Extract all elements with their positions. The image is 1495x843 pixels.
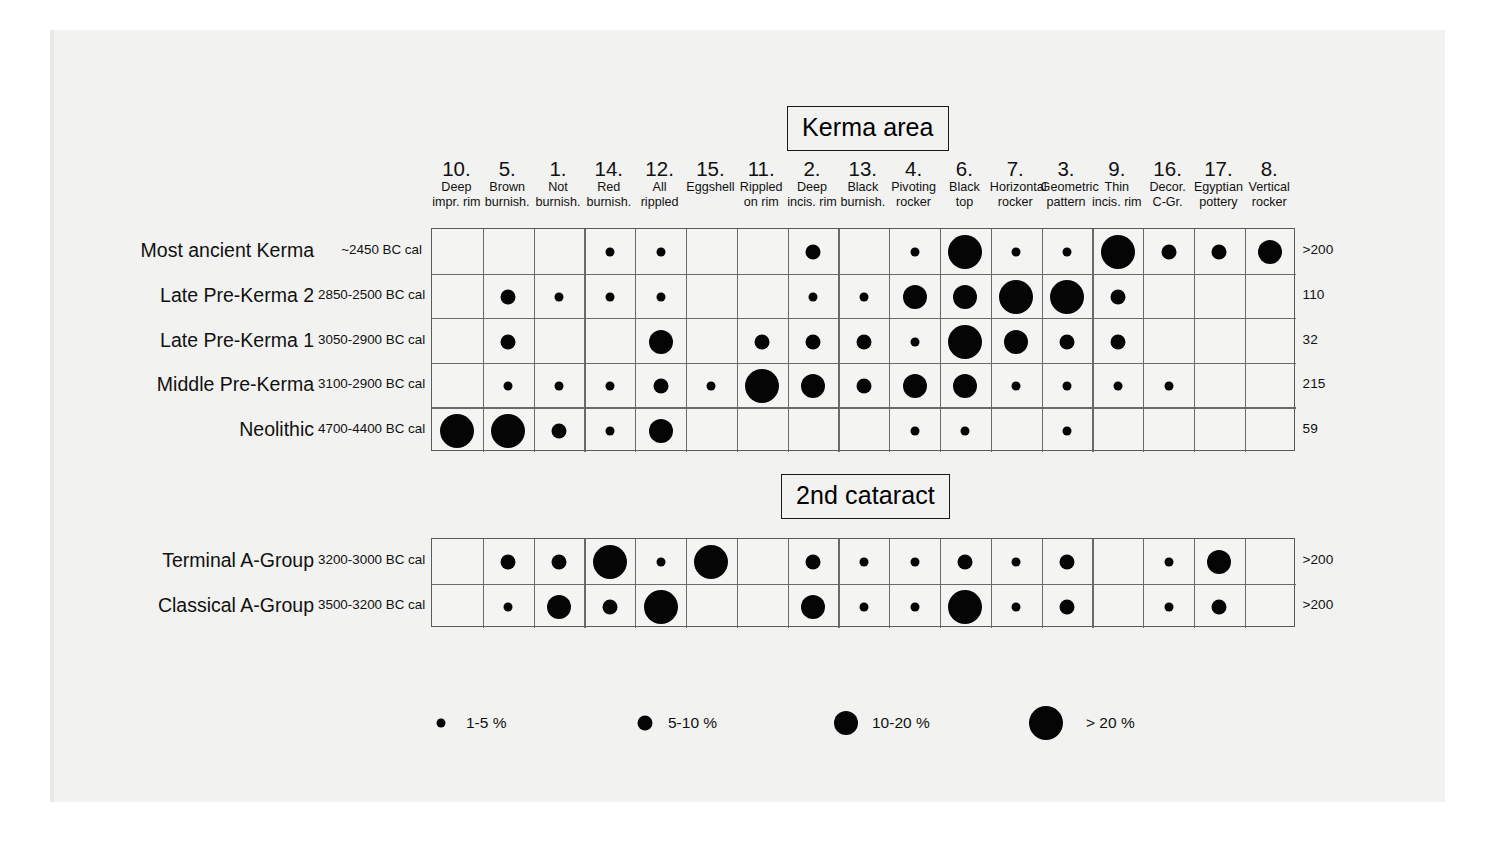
- data-bubble: [1258, 240, 1282, 264]
- grid-horizontal-line: [432, 318, 1296, 319]
- grid-vertical-line: [686, 229, 687, 452]
- data-bubble: [1063, 248, 1072, 257]
- grid-horizontal-line: [432, 363, 1296, 364]
- column-label-line1: Vertical: [1244, 180, 1295, 195]
- column-label-line2: pattern: [1041, 195, 1092, 210]
- column-number: 8.: [1244, 158, 1295, 180]
- data-bubble: [501, 289, 516, 304]
- column-label-line1: Deep: [431, 180, 482, 195]
- row-label-4: Middle Pre-Kerma: [60, 374, 314, 394]
- column-label-line2: C-Gr.: [1142, 195, 1193, 210]
- legend-bubble-3: [834, 711, 858, 735]
- column-label-line1: Decor.: [1142, 180, 1193, 195]
- data-bubble: [593, 545, 627, 579]
- column-header-11: 6.Blacktop: [939, 158, 990, 209]
- column-label-line2: impr. rim: [431, 195, 482, 210]
- data-bubble: [903, 285, 927, 309]
- column-number: 7.: [990, 158, 1041, 180]
- data-bubble: [1110, 334, 1125, 349]
- column-label-line2: pottery: [1193, 195, 1244, 210]
- data-bubble: [1060, 555, 1075, 570]
- grid-vertical-line: [584, 229, 585, 452]
- column-header-14: 9.Thinincis. rim: [1091, 158, 1142, 209]
- column-label-line2: incis. rim: [1091, 195, 1142, 210]
- row-date-2: 2850-2500 BC cal: [318, 287, 422, 303]
- data-bubble: [755, 334, 770, 349]
- data-bubble: [1012, 558, 1021, 567]
- row-count-4: 215: [1303, 376, 1326, 392]
- legend-bubble-4: [1029, 706, 1063, 740]
- column-label-line1: Brown: [482, 180, 533, 195]
- row-count-6: >200: [1303, 552, 1334, 568]
- column-header-13: 3.Geometricpattern: [1041, 158, 1092, 209]
- column-number: 9.: [1091, 158, 1142, 180]
- column-label-line1: Rippled: [736, 180, 787, 195]
- data-bubble: [999, 280, 1033, 314]
- data-bubble: [605, 382, 614, 391]
- data-bubble: [745, 369, 779, 403]
- data-bubble: [948, 325, 982, 359]
- grid-vertical-line: [1143, 229, 1144, 452]
- data-bubble: [1164, 602, 1173, 611]
- legend-label-4: > 20 %: [1086, 714, 1135, 732]
- row-label-3: Late Pre-Kerma 1: [60, 330, 314, 350]
- column-header-9: 13.Blackburnish.: [837, 158, 888, 209]
- column-header-1: 10.Deepimpr. rim: [431, 158, 482, 209]
- column-header-2: 5.Brownburnish.: [482, 158, 533, 209]
- column-label-line1: Black: [939, 180, 990, 195]
- column-number: 5.: [482, 158, 533, 180]
- row-label-2: Late Pre-Kerma 2: [60, 285, 314, 305]
- grid-vertical-line: [940, 229, 941, 452]
- data-bubble: [555, 382, 564, 391]
- figure-page: Kerma area 2nd cataract 10.Deepimpr. rim…: [0, 0, 1495, 843]
- column-label-line1: Not: [533, 180, 584, 195]
- data-bubble: [910, 248, 919, 257]
- data-bubble: [1063, 382, 1072, 391]
- column-header-4: 14.Redburnish.: [583, 158, 634, 209]
- data-bubble: [656, 558, 665, 567]
- data-bubble: [948, 590, 982, 624]
- data-bubble: [649, 330, 673, 354]
- data-bubble: [501, 334, 516, 349]
- column-label-line1: Red: [583, 180, 634, 195]
- column-label-line2: rocker: [888, 195, 939, 210]
- data-bubble: [644, 590, 678, 624]
- data-bubble: [809, 292, 818, 301]
- data-bubble: [501, 555, 516, 570]
- data-bubble: [602, 599, 617, 614]
- data-bubble: [1110, 289, 1125, 304]
- column-label-line1: All: [634, 180, 685, 195]
- column-number: 12.: [634, 158, 685, 180]
- column-label-line1: Geometric: [1041, 180, 1092, 195]
- column-label-line2: rocker: [990, 195, 1041, 210]
- column-number: 16.: [1142, 158, 1193, 180]
- grid-vertical-line: [991, 229, 992, 452]
- data-bubble: [649, 419, 673, 443]
- data-bubble: [903, 374, 927, 398]
- column-header-5: 12.Allrippled: [634, 158, 685, 209]
- data-bubble: [801, 374, 825, 398]
- data-bubble: [504, 602, 513, 611]
- column-number: 11.: [736, 158, 787, 180]
- grid-horizontal-line: [432, 584, 1296, 585]
- grid-vertical-line: [1042, 229, 1043, 452]
- data-bubble: [707, 382, 716, 391]
- grid-vertical-line: [737, 229, 738, 452]
- row-date-1: ~2450 BC cal: [318, 242, 422, 258]
- data-bubble: [1207, 550, 1231, 574]
- data-bubble: [961, 426, 970, 435]
- data-bubble: [859, 602, 868, 611]
- legend-bubble-1: [437, 719, 446, 728]
- data-bubble: [694, 545, 728, 579]
- column-label-line2: rocker: [1244, 195, 1295, 210]
- data-bubble: [1012, 382, 1021, 391]
- data-bubble: [910, 337, 919, 346]
- data-bubble: [1164, 558, 1173, 567]
- data-bubble: [653, 379, 668, 394]
- data-bubble: [1101, 235, 1135, 269]
- row-date-4: 3100-2900 BC cal: [318, 376, 422, 392]
- row-label-7: Classical A-Group: [60, 595, 314, 615]
- column-header-15: 16.Decor.C-Gr.: [1142, 158, 1193, 209]
- grid-vertical-line: [788, 229, 789, 452]
- data-bubble: [948, 235, 982, 269]
